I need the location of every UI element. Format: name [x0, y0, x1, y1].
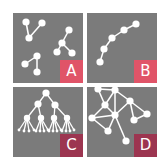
graph-node	[96, 58, 103, 65]
graph-node	[18, 129, 21, 132]
graph-node	[126, 97, 133, 104]
graph-node	[122, 137, 129, 144]
panel-label-b: B	[134, 60, 157, 83]
graph-node	[25, 34, 32, 41]
graph-node	[94, 87, 101, 93]
graph-node	[38, 19, 45, 26]
graph-node	[34, 100, 41, 107]
graph-node	[143, 110, 150, 117]
panel-c: C	[13, 87, 83, 157]
graph-node	[69, 130, 72, 133]
graph-node	[61, 130, 64, 133]
panel-d: D	[87, 87, 157, 157]
graph-node	[68, 49, 75, 56]
graph-node	[65, 130, 68, 133]
graph-node	[52, 130, 55, 133]
graph-node	[65, 26, 72, 33]
graph-node	[22, 18, 29, 25]
graph-node	[132, 20, 139, 27]
graph-node	[35, 130, 38, 133]
graph-node	[53, 48, 60, 55]
panel-label-a: A	[60, 60, 83, 83]
graph-node	[39, 130, 42, 133]
graph-node	[64, 115, 70, 121]
graph-node	[28, 130, 31, 133]
graph-node	[24, 115, 30, 121]
graph-node	[23, 130, 26, 133]
graph-node	[33, 68, 40, 75]
graph-node	[58, 39, 65, 46]
graph-node	[120, 26, 127, 33]
graph-node	[108, 34, 115, 41]
graph-node	[88, 114, 95, 121]
graph-node	[51, 101, 58, 108]
panel-b: B	[87, 13, 157, 83]
panel-label-d: D	[134, 134, 157, 157]
panel-label-c: C	[60, 134, 83, 157]
graph-node	[73, 129, 76, 132]
graph-node	[51, 115, 57, 121]
graph-node	[104, 127, 111, 134]
graph-node	[56, 130, 59, 133]
graph-node	[130, 116, 137, 123]
graph-node	[101, 101, 108, 108]
graph-node	[43, 130, 46, 133]
graph-node	[38, 115, 44, 121]
graph-node	[48, 130, 51, 133]
graph-edge	[115, 115, 126, 141]
graph-node	[21, 60, 28, 67]
graph-node	[33, 52, 40, 59]
panel-a: A	[13, 13, 83, 83]
graph-node	[111, 111, 118, 118]
graph-node	[100, 45, 107, 52]
graph-node	[42, 89, 49, 96]
